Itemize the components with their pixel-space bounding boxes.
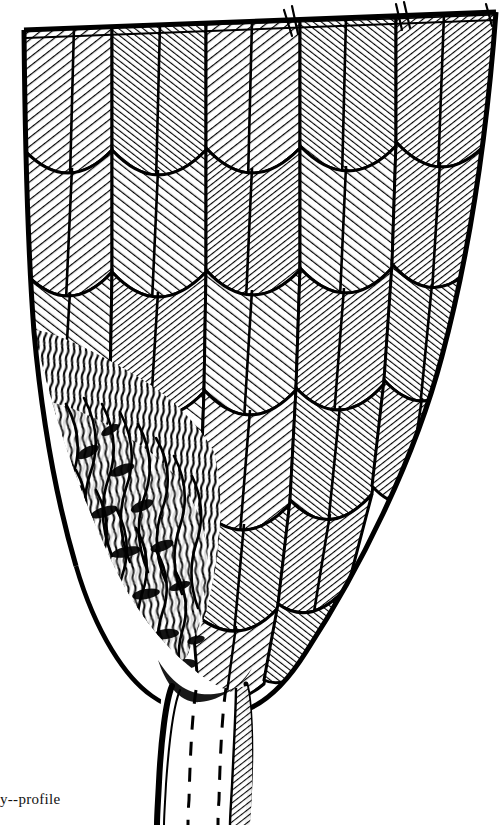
feather <box>300 18 396 178</box>
feather <box>24 150 112 300</box>
feather-row-1 <box>24 14 496 182</box>
feather-profile-illustration <box>0 0 504 825</box>
feather <box>206 148 300 300</box>
feather <box>206 21 300 180</box>
caption-layer: y--profile <box>0 790 200 814</box>
feather <box>24 26 112 178</box>
feather <box>204 270 300 420</box>
figure-root: y--profile <box>0 0 504 825</box>
figure-caption: y--profile <box>0 790 200 808</box>
feather <box>112 24 206 182</box>
feather <box>112 150 206 302</box>
